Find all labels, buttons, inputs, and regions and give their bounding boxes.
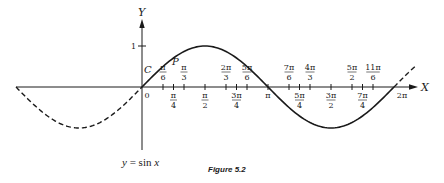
tick-label-denominator: 4 bbox=[360, 101, 365, 110]
x-axis-label: X bbox=[420, 81, 430, 94]
tick-label-denominator: 2 bbox=[349, 73, 354, 82]
annotation-c: C bbox=[144, 64, 152, 75]
tick-label-denominator: 2 bbox=[202, 101, 207, 110]
tick-label-numerator: π bbox=[171, 91, 176, 100]
tick-label-numerator: π bbox=[202, 91, 207, 100]
tick-label: π bbox=[265, 91, 270, 100]
x-axis-arrow-icon bbox=[409, 84, 418, 89]
sine-curve-dashed-2 bbox=[394, 67, 415, 87]
tick-label-denominator: 6 bbox=[160, 73, 165, 82]
tick-label-numerator: π bbox=[160, 63, 165, 72]
tick-label-denominator: 3 bbox=[307, 73, 312, 82]
sine-graph: Y X 1 C P π6π32π35π67π64π35π211π60π4π23π… bbox=[0, 0, 444, 183]
tick-label-numerator: 5π bbox=[347, 63, 357, 72]
tick-label-denominator: 3 bbox=[223, 73, 228, 82]
y-tick-label-1: 1 bbox=[131, 42, 136, 51]
tick-label-numerator: 11π bbox=[365, 63, 380, 72]
tick-label-denominator: 6 bbox=[286, 73, 291, 82]
tick-label-numerator: 7π bbox=[284, 63, 294, 72]
tick-label-numerator: π bbox=[181, 63, 186, 72]
tick-label-denominator: 4 bbox=[234, 101, 239, 110]
tick-label-numerator: 2π bbox=[221, 63, 231, 72]
tick-label-numerator: 5π bbox=[294, 91, 304, 100]
figure-caption: Figure 5.2 bbox=[208, 165, 246, 174]
tick-label-denominator: 3 bbox=[181, 73, 186, 82]
tick-label-numerator: 3π bbox=[326, 91, 336, 100]
sine-curve-dashed-1 bbox=[16, 87, 142, 128]
tick-label-numerator: 4π bbox=[305, 63, 315, 72]
tick-label-denominator: 2 bbox=[328, 101, 333, 110]
tick-label-numerator: 5π bbox=[242, 63, 252, 72]
tick-label-numerator: 3π bbox=[231, 91, 241, 100]
y-axis-label: Y bbox=[138, 6, 147, 19]
y-axis-arrow-icon bbox=[139, 19, 144, 28]
tick-label-denominator: 6 bbox=[244, 73, 249, 82]
equation-caption: y = sin x bbox=[121, 156, 159, 168]
annotation-p: P bbox=[171, 56, 179, 67]
tick-label-numerator: 7π bbox=[357, 91, 367, 100]
tick-label-denominator: 6 bbox=[370, 73, 375, 82]
tick-label: 2π bbox=[397, 91, 407, 100]
tick-label-denominator: 4 bbox=[171, 101, 176, 110]
tick-label-denominator: 4 bbox=[297, 101, 302, 110]
tick-label-origin: 0 bbox=[144, 91, 149, 100]
